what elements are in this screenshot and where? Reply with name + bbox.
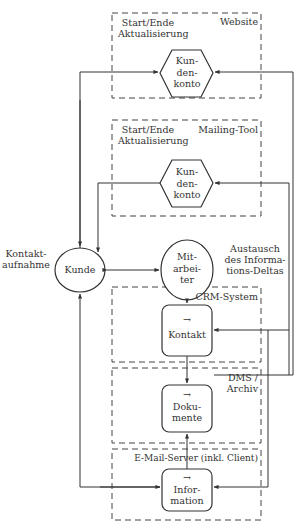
dokumente-label: → Doku- mente <box>162 389 212 424</box>
node-line: Mit- <box>166 251 208 263</box>
node-line: mente <box>162 412 212 424</box>
dms-title: DMS / Archiv <box>210 372 258 394</box>
node-line: konto <box>166 189 208 201</box>
website-note: Start/Ende Aktualisierung <box>118 17 178 39</box>
node-line: ter <box>166 274 208 286</box>
mailing-note-line: Start/Ende <box>118 124 178 135</box>
mailing-exchange-connector <box>215 183 289 375</box>
website-title: Website <box>200 16 258 27</box>
node-line: arbei- <box>166 263 208 275</box>
website-note-line: Aktualisierung <box>118 28 178 39</box>
kunde-label: Kunde <box>58 264 102 276</box>
crm-title: CRM-System <box>190 291 258 302</box>
website-kundenkonto-label: Kun- den- konto <box>166 55 208 90</box>
dms-title-line: Archiv <box>210 383 258 394</box>
mailing-kundenkonto-label: Kun- den- konto <box>166 166 208 201</box>
annotation-line: Austausch <box>224 243 286 254</box>
arrow-right-icon: → <box>162 472 212 484</box>
side-note-line: Kontakt- <box>2 248 50 259</box>
email-title: E-Mail-Server (inkl. Client) <box>130 453 258 464</box>
website-note-line: Start/Ende <box>118 17 178 28</box>
node-line: Kontakt <box>162 329 212 341</box>
dms-title-line: DMS / <box>210 372 258 383</box>
node-line: den- <box>166 67 208 79</box>
node-line: konto <box>166 78 208 90</box>
node-line: mation <box>162 495 212 507</box>
mitarbeiter-label: Mit- arbei- ter <box>166 251 208 286</box>
mailing-note-line: Aktualisierung <box>118 135 178 146</box>
arrow-right-icon: → <box>162 389 212 401</box>
node-line: Doku- <box>162 401 212 413</box>
mailing-tool-note: Start/Ende Aktualisierung <box>118 124 178 146</box>
mailing-kunde-connector <box>98 183 160 252</box>
annotation-line: tions-Deltas <box>224 265 286 276</box>
mailing-tool-title: Mailing-Tool <box>190 124 258 135</box>
exchange-annotation: Austausch des Informa- tions-Deltas <box>224 243 286 276</box>
side-note-line: aufnahme <box>2 259 50 270</box>
arrow-right-icon: → <box>162 314 212 326</box>
annotation-line: des Informa- <box>224 254 286 265</box>
kunde-side-note: Kontakt- aufnahme <box>2 248 50 270</box>
node-line: den- <box>166 178 208 190</box>
information-label: → Infor- mation <box>162 472 212 507</box>
node-line: Kun- <box>166 166 208 178</box>
kontakt-label: → Kontakt <box>162 314 212 340</box>
node-line: Infor- <box>162 484 212 496</box>
node-line: Kun- <box>166 55 208 67</box>
